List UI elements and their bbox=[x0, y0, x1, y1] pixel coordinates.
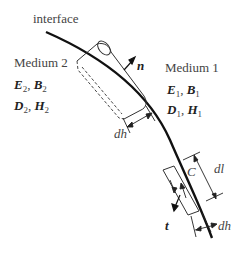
medium2-label: Medium 2 bbox=[14, 56, 68, 69]
pillbox-cylinder bbox=[77, 39, 146, 119]
field-D1: D bbox=[167, 102, 176, 117]
field-E2: E bbox=[14, 77, 23, 92]
tangent-arrow-icon bbox=[172, 195, 180, 211]
field-H1: H bbox=[187, 102, 197, 117]
medium1-fields-line2: D1, H1 bbox=[167, 103, 202, 119]
pillbox-dashed bbox=[77, 61, 124, 119]
dl-label: dl bbox=[214, 162, 224, 175]
dh-bottom-label: dh bbox=[218, 219, 231, 232]
medium2-fields-line2: D2, H2 bbox=[14, 99, 49, 115]
dh-top-dimension bbox=[123, 106, 155, 133]
normal-label: n bbox=[137, 59, 144, 72]
dh-top-label: dh bbox=[114, 127, 127, 140]
medium2-fields-line1: E2, B2 bbox=[14, 78, 47, 94]
medium1-fields-line1: E1, B1 bbox=[167, 83, 200, 99]
normal-arrow-icon bbox=[124, 57, 135, 70]
interface-label: interface bbox=[33, 12, 78, 25]
field-H2: H bbox=[34, 98, 44, 113]
dh-bottom-dimension bbox=[191, 213, 217, 237]
tangent-label: t bbox=[165, 219, 169, 232]
contour-label: C bbox=[187, 165, 196, 178]
field-D2: D bbox=[14, 98, 23, 113]
field-E1: E bbox=[167, 82, 176, 97]
medium1-label: Medium 1 bbox=[165, 61, 219, 74]
